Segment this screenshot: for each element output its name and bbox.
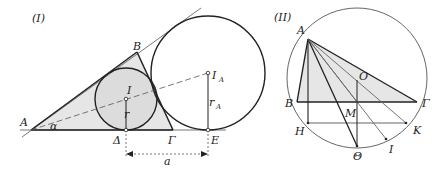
label-alpha: α bbox=[50, 120, 58, 133]
point-k bbox=[405, 122, 408, 125]
point-i bbox=[124, 97, 128, 101]
figure-2: (II) A B Γ O M H K Θ I bbox=[274, 8, 430, 163]
point-i-2 bbox=[385, 138, 388, 141]
label-excenter: I bbox=[211, 69, 217, 82]
arrowhead-left bbox=[126, 151, 133, 157]
point-theta bbox=[356, 145, 359, 148]
label-b: B bbox=[132, 40, 141, 53]
point-e bbox=[206, 128, 210, 132]
label-a-vertex: A bbox=[19, 116, 28, 129]
label-gamma-2: Γ bbox=[421, 97, 430, 110]
label-a-length: a bbox=[164, 155, 171, 168]
label-r: r bbox=[124, 108, 130, 121]
label-b-2: B bbox=[284, 97, 293, 110]
figure-1-title: (I) bbox=[32, 12, 45, 25]
point-delta bbox=[124, 128, 128, 132]
point-h bbox=[307, 122, 310, 125]
point-ia bbox=[206, 71, 210, 75]
label-ra-sub: A bbox=[215, 103, 221, 111]
label-delta: Δ bbox=[112, 134, 121, 147]
geometry-diagram: (I) A B Γ Δ E I I A α r r A a bbox=[0, 0, 448, 172]
figure-2-title: (II) bbox=[274, 11, 291, 24]
label-theta: Θ bbox=[353, 150, 362, 163]
label-h: H bbox=[294, 125, 305, 138]
label-incenter: I bbox=[126, 84, 132, 97]
label-o: O bbox=[359, 70, 368, 83]
label-a-2: A bbox=[296, 24, 305, 37]
figure-1: (I) A B Γ Δ E I I A α r r A a bbox=[19, 8, 265, 168]
arrowhead-right bbox=[201, 151, 208, 157]
label-i-2: I bbox=[388, 143, 394, 156]
label-m: M bbox=[344, 107, 357, 120]
label-excenter-sub: A bbox=[218, 76, 224, 84]
label-gamma: Γ bbox=[167, 134, 176, 147]
label-e: E bbox=[210, 134, 219, 147]
label-k: K bbox=[412, 124, 422, 137]
label-ra: r bbox=[209, 96, 215, 109]
